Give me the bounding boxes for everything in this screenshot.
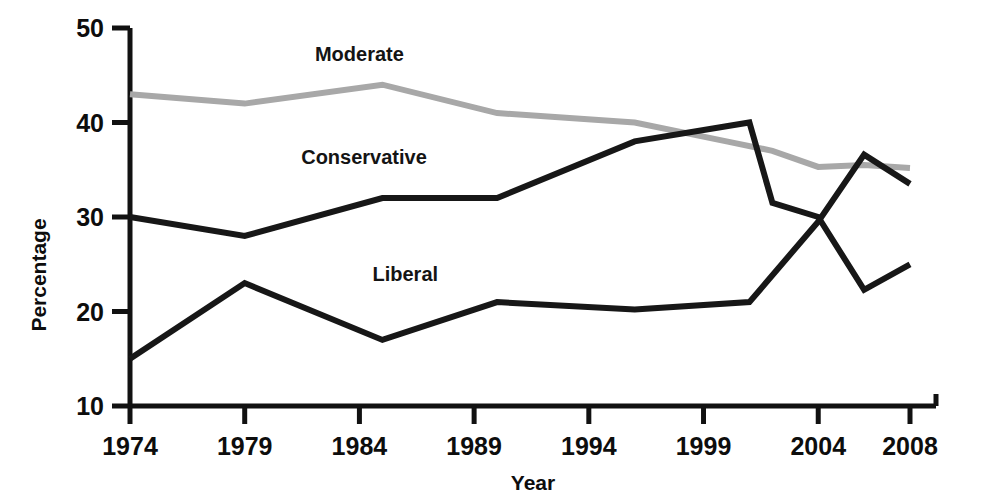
series-label-group: ModerateConservativeLiberal bbox=[301, 43, 438, 285]
x-tick-label: 1984 bbox=[332, 432, 388, 460]
y-tick-group bbox=[112, 28, 130, 406]
y-tick-label: 30 bbox=[76, 203, 104, 231]
y-tick-label: 50 bbox=[76, 14, 104, 42]
x-axis-title: Year bbox=[511, 471, 555, 494]
series-line-liberal bbox=[130, 155, 910, 359]
x-tick-group bbox=[130, 406, 910, 424]
series-line-conservative bbox=[130, 123, 910, 290]
x-tick-label-group: 19741979198419891994199920042008 bbox=[102, 432, 938, 460]
chart-canvas: 5040302010 19741979198419891994199920042… bbox=[0, 0, 992, 501]
series-line-moderate bbox=[130, 85, 910, 168]
y-axis-title: Percentage bbox=[27, 218, 50, 331]
x-tick-label: 2004 bbox=[790, 432, 846, 460]
series-label-moderate: Moderate bbox=[315, 43, 404, 65]
series-line-group bbox=[130, 85, 910, 359]
series-label-liberal: Liberal bbox=[373, 263, 439, 285]
x-tick-label: 1979 bbox=[217, 432, 273, 460]
series-label-conservative: Conservative bbox=[301, 146, 427, 168]
y-tick-label: 10 bbox=[76, 392, 104, 420]
x-tick-label: 1974 bbox=[102, 432, 158, 460]
x-tick-label: 1999 bbox=[676, 432, 732, 460]
y-tick-label: 40 bbox=[76, 109, 104, 137]
y-tick-label-group: 5040302010 bbox=[76, 14, 104, 420]
line-chart: 5040302010 19741979198419891994199920042… bbox=[0, 0, 992, 501]
x-tick-label: 1989 bbox=[446, 432, 502, 460]
y-tick-label: 20 bbox=[76, 298, 104, 326]
x-tick-label: 1994 bbox=[561, 432, 617, 460]
x-tick-label: 2008 bbox=[882, 432, 938, 460]
